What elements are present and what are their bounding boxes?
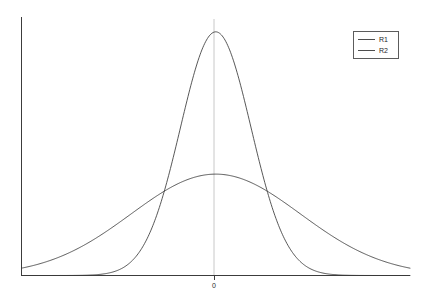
legend-label-r1: R1 [379,36,388,43]
legend: R1 R2 [354,32,399,59]
chart-plot-area: 0 R1 R2 [0,0,421,296]
curve-r2 [22,174,411,268]
chart-container: 0 R1 R2 [0,0,421,296]
curve-r1 [22,32,411,276]
x-axis-tick-label-zero: 0 [212,282,216,289]
legend-box [354,32,399,59]
legend-label-r2: R2 [379,47,388,54]
